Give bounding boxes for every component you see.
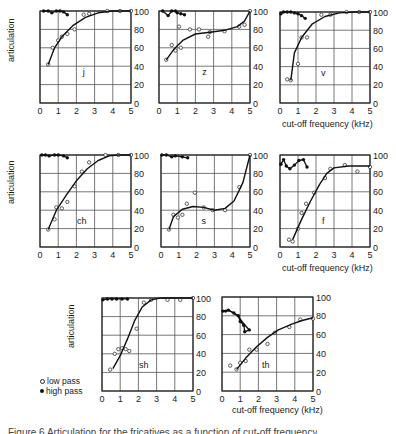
- fit-curve: [223, 310, 249, 330]
- panel-label: v: [321, 68, 326, 78]
- high-pass-point: [126, 297, 129, 300]
- x-tick-label: 5: [247, 106, 252, 116]
- low-pass-point: [291, 240, 294, 243]
- low-pass-point: [304, 202, 307, 205]
- high-pass-point: [186, 156, 189, 159]
- high-pass-point: [289, 10, 292, 13]
- y-tick-label: 80: [373, 169, 383, 179]
- high-pass-point: [57, 153, 60, 156]
- x-tick-label: 4: [172, 394, 177, 404]
- high-pass-point: [55, 9, 58, 12]
- high-pass-point: [297, 159, 300, 162]
- y-tick-label: 40: [253, 206, 263, 216]
- high-pass-point: [282, 10, 285, 13]
- high-pass-point: [176, 11, 179, 14]
- high-pass-point: [285, 164, 288, 167]
- y-tick-label: 80: [316, 311, 326, 321]
- high-pass-point: [174, 154, 177, 157]
- high-pass-point: [243, 330, 246, 333]
- high-pass-point: [293, 163, 296, 166]
- high-pass-point: [288, 167, 291, 170]
- x-tick-label: 5: [128, 106, 133, 116]
- panel-label: sh: [139, 360, 149, 370]
- y-tick-label: 0: [253, 99, 258, 109]
- x-tick-label: 0: [156, 106, 161, 116]
- low-pass-point: [170, 43, 173, 46]
- high-pass-point: [101, 298, 104, 301]
- high-pass-point: [120, 297, 123, 300]
- x-tick-label: 0: [277, 106, 282, 116]
- y-tick-label: 60: [316, 330, 326, 340]
- y-tick-label: 80: [134, 169, 144, 179]
- panel-z: 012345020406080100z: [156, 7, 268, 117]
- plot-frame: [280, 155, 370, 247]
- y-tick-label: 80: [253, 25, 263, 35]
- y-tick-label: 20: [134, 224, 144, 234]
- y-tick-label: 60: [196, 331, 206, 341]
- x-tick-label: 3: [211, 106, 216, 116]
- y-tick-label: 40: [134, 62, 144, 72]
- low-pass-point: [128, 349, 131, 352]
- high-pass-point: [279, 163, 282, 166]
- y-tick-label: 20: [253, 80, 263, 90]
- x-tick-label: 4: [110, 106, 115, 116]
- high-pass-line: [223, 310, 249, 332]
- low-pass-point: [124, 347, 127, 350]
- x-tick-label: 2: [194, 250, 199, 260]
- y-tick-label: 0: [373, 99, 378, 109]
- low-pass-point: [176, 216, 179, 219]
- x-tick-label: 4: [229, 106, 234, 116]
- y-tick-label: 0: [196, 387, 201, 397]
- panel-label: s: [201, 216, 206, 226]
- x-axis-label-row3: cut-off frequency (kHz): [232, 405, 323, 415]
- fit-curve: [48, 155, 131, 230]
- y-axis-label-row2: articulation: [6, 160, 16, 204]
- legend-label-low-pass: low pass: [47, 376, 80, 386]
- plot-frame: [40, 11, 131, 103]
- y-tick-label: 60: [253, 187, 263, 197]
- figure-caption: Figure 6 Articulation for the fricatives…: [8, 427, 317, 434]
- y-tick-label: 100: [253, 7, 268, 17]
- y-tick-label: 0: [253, 243, 258, 253]
- legend-item-low-pass: low pass: [40, 376, 82, 386]
- y-tick-label: 0: [373, 243, 378, 253]
- y-tick-label: 40: [253, 62, 263, 72]
- y-tick-label: 40: [373, 206, 383, 216]
- x-tick-label: 1: [118, 394, 123, 404]
- x-tick-label: 2: [313, 250, 318, 260]
- low-pass-point: [113, 352, 116, 355]
- x-tick-label: 1: [295, 106, 300, 116]
- x-tick-label: 3: [331, 250, 336, 260]
- y-tick-label: 0: [134, 243, 139, 253]
- high-pass-point: [165, 153, 168, 156]
- high-pass-point: [300, 14, 303, 17]
- y-tick-label: 60: [253, 43, 263, 53]
- panel-s: 012345020406080100s: [158, 151, 268, 261]
- low-pass-point: [188, 28, 191, 31]
- x-tick-label: 0: [37, 106, 42, 116]
- plot-frame: [159, 11, 250, 103]
- high-pass-point: [40, 153, 43, 156]
- y-tick-label: 20: [196, 368, 206, 378]
- high-pass-point: [170, 155, 173, 158]
- low-pass-point: [117, 347, 120, 350]
- x-tick-label: 5: [310, 394, 315, 404]
- y-tick-label: 100: [373, 8, 388, 18]
- high-pass-point: [115, 297, 118, 300]
- low-pass-point: [193, 191, 196, 194]
- high-pass-point: [66, 13, 69, 16]
- panel-j: 012345020406080100j: [37, 7, 149, 117]
- fit-curve: [113, 298, 193, 369]
- y-tick-label: 80: [253, 169, 263, 179]
- x-tick-label: 4: [230, 250, 235, 260]
- y-tick-label: 100: [134, 151, 149, 161]
- y-tick-label: 100: [373, 151, 388, 161]
- plot-frame: [161, 155, 250, 247]
- legend: low pass high pass: [40, 376, 82, 396]
- low-pass-point: [287, 238, 290, 241]
- x-tick-label: 5: [367, 250, 372, 260]
- low-pass-point: [300, 211, 303, 214]
- x-tick-label: 0: [99, 394, 104, 404]
- y-tick-label: 80: [373, 26, 383, 36]
- x-tick-label: 3: [212, 250, 217, 260]
